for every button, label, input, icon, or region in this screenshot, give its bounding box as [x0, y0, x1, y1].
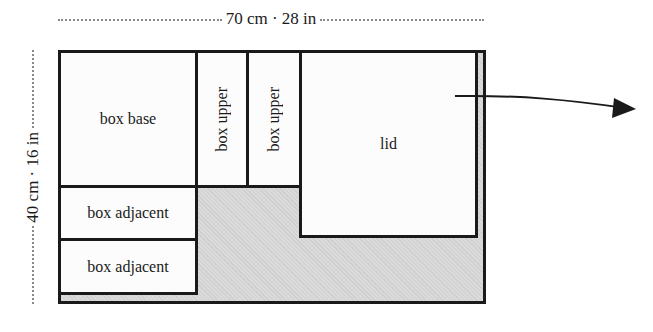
piece-label: lid	[380, 135, 397, 153]
piece-box-upper-2: box upper	[246, 50, 302, 188]
piece-label: box adjacent	[87, 258, 168, 276]
piece-box-adjacent-2: box adjacent	[58, 238, 198, 295]
piece-label: box upper	[265, 87, 283, 151]
piece-label: box upper	[213, 87, 231, 151]
width-label: 70 cm · 28 in	[222, 9, 321, 29]
height-dimension: 40 cm · 16 in	[22, 50, 44, 304]
piece-box-upper-1: box upper	[195, 50, 249, 188]
material-sheet: box base box upper box upper lid box adj…	[58, 50, 486, 304]
piece-label: box adjacent	[87, 204, 168, 222]
piece-box-adjacent-1: box adjacent	[58, 185, 198, 241]
width-dimension: 70 cm · 28 in	[58, 8, 484, 30]
piece-box-base: box base	[58, 50, 198, 188]
dotted-line	[320, 19, 484, 21]
height-label: 40 cm · 16 in	[23, 128, 43, 227]
piece-label: box base	[100, 110, 156, 128]
dotted-line	[32, 50, 34, 128]
dotted-line	[32, 226, 34, 304]
piece-lid: lid	[299, 50, 478, 238]
dotted-line	[58, 19, 222, 21]
arrow-icon	[440, 80, 640, 140]
